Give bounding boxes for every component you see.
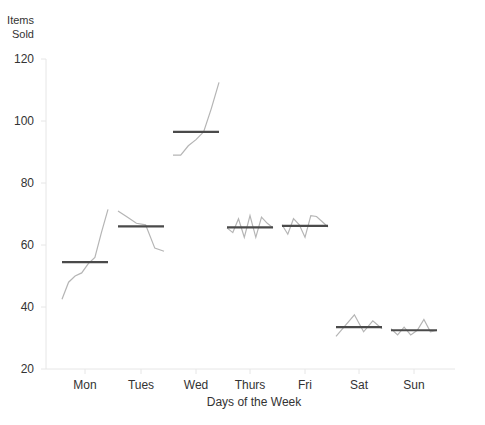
detail-line-sat [336,315,382,337]
y-axis-title-line2: Sold [12,28,34,40]
detail-line-sun [391,319,437,335]
x-tick-label-tues: Tues [128,378,154,392]
x-axis-title: Days of the Week [207,395,302,409]
y-axis-title-line1: Items [7,14,34,26]
detail-line-mon [62,209,108,299]
y-tick-label: 80 [21,176,35,190]
x-tick-label-sun: Sun [403,378,424,392]
x-tick-label-thurs: Thurs [235,378,266,392]
detail-line-tues [118,211,164,251]
x-tick-label-fri: Fri [298,378,312,392]
y-tick-label: 120 [14,52,34,66]
detail-line-wed [173,82,219,155]
x-axis-ticks: MonTuesWedThursFriSatSun [73,369,424,392]
y-axis-ticks: 20406080100120 [14,52,46,376]
y-tick-label: 100 [14,114,34,128]
series-group [62,82,437,336]
y-tick-label: 60 [21,238,35,252]
y-tick-label: 40 [21,300,35,314]
x-tick-label-sat: Sat [350,378,369,392]
x-tick-label-mon: Mon [73,378,96,392]
x-tick-label-wed: Wed [184,378,208,392]
cycle-plot-chart: Items Sold 20406080100120 MonTuesWedThur… [0,0,485,425]
y-tick-label: 20 [21,362,35,376]
